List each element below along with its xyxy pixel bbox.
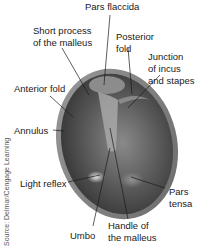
label-junction-line3: and stapes: [148, 75, 194, 86]
label-pars-tensa-line1: Pars: [169, 186, 189, 197]
source-credit: Source: Delmar/Cengage Learning: [3, 138, 10, 246]
label-junction-line2: of incus: [148, 63, 181, 74]
label-short-process-line1: Short process: [33, 25, 92, 36]
label-pars-tensa-line2: tensa: [169, 198, 192, 209]
label-posterior-fold-line1: Posterior: [116, 31, 154, 42]
label-handle-line2: the malleus: [108, 232, 157, 243]
label-junction-line1: Junction: [148, 51, 183, 62]
label-anterior-fold: Anterior fold: [14, 83, 65, 94]
label-short-process-line2: of the malleus: [33, 37, 92, 48]
label-pars-flaccida: Pars flaccida: [85, 1, 139, 12]
label-handle-line1: Handle of: [108, 220, 149, 231]
label-light-reflex: Light reflex: [20, 178, 66, 189]
label-annulus: Annulus: [14, 125, 48, 136]
label-posterior-fold-line2: fold: [116, 43, 131, 54]
label-umbo: Umbo: [70, 230, 95, 241]
